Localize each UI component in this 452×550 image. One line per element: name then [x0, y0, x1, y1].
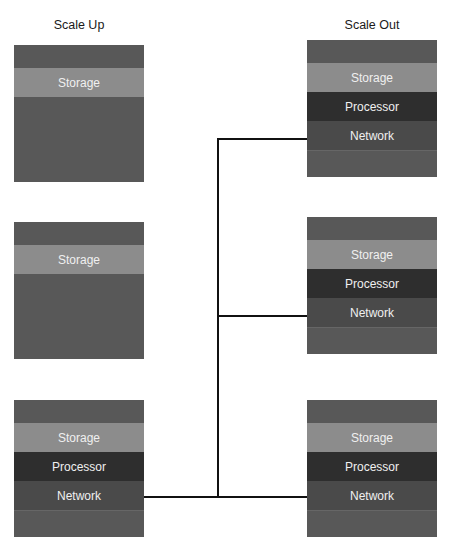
storage-band: Storage — [14, 68, 144, 97]
processor-band: Processor — [307, 452, 437, 481]
scale-up-server-2: Storage — [14, 222, 144, 359]
network-band: Network — [14, 481, 144, 511]
connector-scale-up-3 — [144, 496, 219, 498]
network-band: Network — [307, 481, 437, 511]
connector-scale-out-2 — [217, 315, 307, 317]
server-top-band — [307, 217, 437, 241]
scale-up-title: Scale Up — [14, 18, 144, 32]
scale-up-server-1: Storage — [14, 45, 144, 182]
server-top-band — [307, 40, 437, 64]
server-top-band — [14, 400, 144, 424]
server-bottom-band — [307, 151, 437, 177]
network-band: Network — [307, 298, 437, 328]
server-top-band — [307, 400, 437, 424]
storage-band: Storage — [14, 423, 144, 452]
scale-out-server-1: Storage Processor Network — [307, 40, 437, 177]
network-band: Network — [307, 121, 437, 151]
scale-out-server-3: Storage Processor Network — [307, 400, 437, 537]
storage-band: Storage — [307, 63, 437, 92]
server-bottom-band — [307, 328, 437, 354]
processor-band: Processor — [14, 452, 144, 481]
storage-band: Storage — [14, 245, 144, 274]
storage-band: Storage — [307, 240, 437, 269]
scale-up-server-3: Storage Processor Network — [14, 400, 144, 537]
server-bottom-band — [307, 511, 437, 537]
server-top-band — [14, 222, 144, 246]
scale-out-server-2: Storage Processor Network — [307, 217, 437, 354]
network-bus-vertical — [217, 138, 219, 498]
scale-out-title: Scale Out — [307, 18, 437, 32]
storage-band: Storage — [307, 423, 437, 452]
processor-band: Processor — [307, 92, 437, 121]
processor-band: Processor — [307, 269, 437, 298]
server-top-band — [14, 45, 144, 69]
connector-scale-out-1 — [217, 138, 307, 140]
server-bottom-band — [14, 511, 144, 535]
connector-scale-out-3 — [217, 496, 307, 498]
